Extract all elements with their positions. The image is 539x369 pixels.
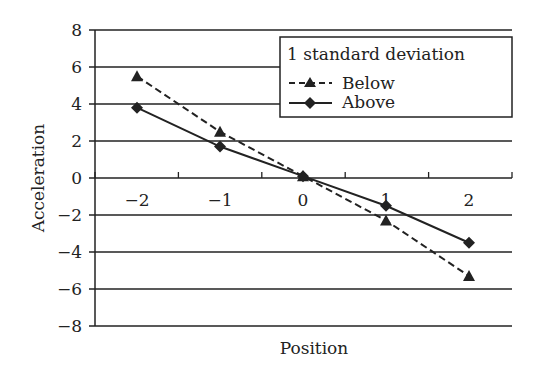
x-tick-label: 2: [464, 190, 475, 210]
y-tick-label: 4: [71, 94, 82, 114]
legend-label-above: Above: [341, 92, 395, 112]
x-tick-label: −2: [124, 190, 149, 210]
y-axis-label: Acceleration: [28, 124, 48, 234]
y-tick-label: 0: [71, 168, 82, 188]
x-tick-labels: −2−1012: [124, 190, 474, 210]
y-tick-label: −8: [57, 316, 82, 336]
y-tick-label: −6: [57, 279, 82, 299]
y-tick-label: 8: [71, 20, 82, 40]
y-tick-label: −2: [57, 205, 82, 225]
x-tick-label: −1: [207, 190, 232, 210]
y-tick-labels: 86420−2−4−6−8: [57, 20, 82, 336]
triangle-marker-icon: [463, 270, 475, 281]
diamond-marker-icon: [463, 237, 475, 249]
y-tick-label: 6: [71, 57, 82, 77]
triangle-marker-icon: [380, 215, 392, 226]
x-axis-label: Position: [280, 338, 349, 358]
triangle-marker-icon: [131, 70, 143, 81]
triangle-marker-icon: [214, 126, 226, 137]
diamond-marker-icon: [214, 141, 226, 153]
line-chart: 86420−2−4−6−8 −2−1012 Position Accelerat…: [0, 0, 539, 369]
legend-title: 1 standard deviation: [287, 44, 465, 64]
legend: 1 standard deviation Below Above: [280, 37, 512, 117]
legend-label-below: Below: [342, 73, 395, 93]
x-tick-label: 0: [298, 190, 309, 210]
y-tick-label: 2: [71, 131, 82, 151]
y-tick-label: −4: [57, 242, 82, 262]
